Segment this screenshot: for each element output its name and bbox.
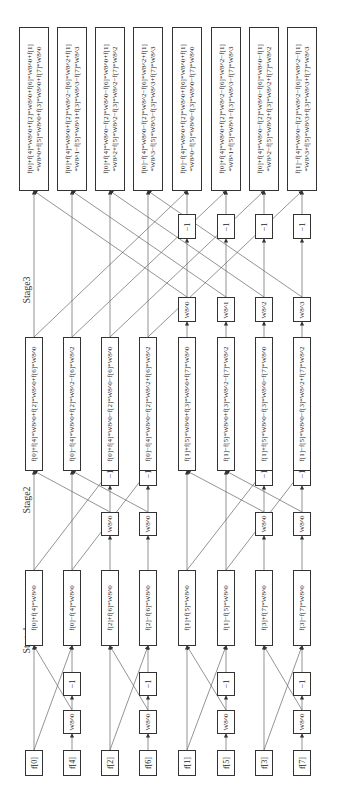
stage2-neg-box-1-text: −1	[144, 470, 153, 479]
stage2-output-box-6-text: f[1]+f[5]*W8^0−f[3]*W8^0−f[7]*W8^0	[260, 347, 269, 462]
stage1-neg-box-1-text: −1	[144, 680, 153, 689]
stage3-neg-box-1-text: −1	[222, 222, 231, 231]
stage1-output-box-0-text: f[0]+f[4]*W8^0	[30, 585, 39, 630]
stage3-neg-box-2: −1	[255, 214, 273, 239]
stage1-twiddle-box-3: W8^0	[293, 710, 311, 734]
stage1-output-box-7-text: f[3]−f[7]*W8^0	[298, 585, 307, 630]
input-box-3: f[6]	[139, 750, 157, 776]
stage3-twiddle-box-3-text: W8^3	[298, 301, 307, 318]
stage1-twiddle-box-0-text: W8^0	[68, 714, 77, 731]
stage2-output-box-4-text: f[1]+f[5]*W8^0+f[3]*W8^0+f[7]*W8^0	[183, 347, 192, 462]
input-box-7-text: f[7]	[298, 757, 307, 769]
input-box-5-text: f[5]	[222, 757, 231, 769]
input-box-6: f[3]	[255, 750, 273, 776]
stage2-output-box-1-text: f[0]−f[4]*W8^0+f[2]*W8^2−f[6]*W8^2	[68, 347, 77, 462]
stage2-output-box-0-text: f[0]+f[4]*W8^0+f[2]*W8^0+f[6]*W8^0	[30, 347, 39, 462]
stage3-output-box-0: f[0]+f[4]*W8^0+f[2]*W8^0+f[6]*W8^0+f[1]*…	[19, 27, 49, 191]
stage2-output-box-4: f[1]+f[5]*W8^0+f[3]*W8^0+f[7]*W8^0	[178, 337, 196, 471]
stage3-twiddle-box-1: W8^1	[217, 297, 235, 322]
stage3-twiddle-box-2-text: W8^2	[260, 301, 269, 318]
input-box-7: f[7]	[293, 750, 311, 776]
stage2-output-box-2-text: f[0]+f[4]*W8^0−f[2]*W8^0−f[6]*W8^0	[106, 347, 115, 462]
stage2-output-box-7-text: f[1]−f[5]*W8^0−f[3]*W8^2+f[7]*W8^2	[298, 347, 307, 462]
expr-line-2: *W8^2+f[5]*W8^2−f[3]*W8^2−f[7]*W8^2	[110, 44, 119, 173]
stage1-neg-box-1: −1	[139, 672, 157, 696]
fft-butterfly-diagram: Stage1 Stage2 Stage3 f[0]f[4]f[2]f[6]f[1…	[0, 0, 339, 812]
stage1-output-box-2-text: f[2]+f[6]*W8^0	[106, 585, 115, 630]
stage3-output-box-1: f[0]+f[4]*W8^0+f[2]*W8^2−f[6]*W8^2+f[1]*…	[57, 27, 87, 191]
stage2-output-box-3-text: f[0]−f[4]*W8^0−f[2]*W8^2+f[6]*W8^2	[144, 347, 153, 462]
stage2-twiddle-box-2: W8^0	[255, 512, 273, 536]
input-box-5: f[5]	[217, 750, 235, 776]
stage2-output-box-7: f[1]−f[5]*W8^0−f[3]*W8^2+f[7]*W8^2	[293, 337, 311, 471]
stage1-output-box-1-text: f[0]−f[4]*W8^0	[68, 585, 77, 630]
expr-line-1: f[1]−f[4]*W8^0−f[2]*W8^2−f[6]*W8^2−f[1]	[294, 44, 303, 173]
stage3-twiddle-box-2: W8^2	[255, 297, 273, 322]
stage3-neg-box-3: −1	[293, 214, 311, 239]
input-box-2-text: f[2]	[106, 757, 115, 769]
stage1-twiddle-box-3-text: W8^0	[298, 714, 307, 731]
stage1-output-box-3: f[2]−f[6]*W8^0	[139, 570, 157, 646]
stage2-output-box-6: f[1]+f[5]*W8^0−f[3]*W8^0−f[7]*W8^0	[255, 337, 273, 471]
stage1-twiddle-box-2-text: W8^0	[222, 714, 231, 731]
expr-line-2: *W8^3+f[5]*W8^3+f[3]*W8^3+f[7]*W8^3	[302, 44, 311, 173]
stage1-neg-box-2-text: −1	[222, 680, 231, 689]
stage3-twiddle-box-0-text: W8^0	[183, 301, 192, 318]
stage3-label: Stage3	[21, 276, 32, 303]
stage2-label: Stage2	[21, 486, 32, 513]
expr-line-2: *W8^3−f[5]*W8^3−f[3]*W8^3+f[7]*W8^3	[148, 44, 157, 173]
stage1-twiddle-box-0: W8^0	[63, 710, 81, 734]
stage1-output-box-3-text: f[2]−f[6]*W8^0	[144, 585, 153, 630]
stage2-twiddle-box-0-text: W8^0	[106, 516, 115, 533]
input-box-1: f[4]	[63, 750, 81, 776]
stage2-output-box-0: f[0]+f[4]*W8^0+f[2]*W8^0+f[6]*W8^0	[25, 337, 43, 471]
stage1-output-box-5-text: f[1]−f[5]*W8^0	[222, 585, 231, 630]
stage2-twiddle-box-1: W8^0	[139, 512, 157, 536]
stage3-output-box-3: f[0]−f[4]*W8^0−f[2]*W8^2−f[6]*W8^2+f[1]*…	[133, 27, 163, 191]
stage3-output-box-4: f[0]−f[4]*W8^0+f[2]*W8^0+f[6]*W8^0+f[1]*…	[172, 27, 202, 191]
stage1-neg-box-0-text: −1	[68, 680, 77, 689]
stage2-twiddle-box-2-text: W8^0	[260, 516, 269, 533]
expr-line-1: f[0]−f[4]*W8^0+f[2]*W8^0+f[6]*W8^0+f[1]	[179, 44, 188, 173]
stage3-neg-box-0: −1	[178, 214, 196, 239]
stage3-twiddle-box-3: W8^3	[293, 297, 311, 322]
expr-line-2: *W8^1−f[5]*W8^1+f[3]*W8^3−f[7]*W8^3	[72, 44, 81, 173]
stage3-neg-box-3-text: −1	[298, 222, 307, 231]
expr-line-2: *W8^2−f[5]*W8^2+f[3]*W8^2+f[7]*W8^2	[264, 44, 273, 173]
expr-line-1: f[0]+f[4]*W8^0+f[2]*W8^2−f[6]*W8^2−f[1]	[218, 44, 227, 173]
stage2-twiddle-box-3-text: W8^0	[298, 516, 307, 533]
input-box-4-text: f[1]	[183, 757, 192, 769]
expr-line-1: f[0]+f[4]*W8^0−f[2]*W8^0−f[6]*W8^0+f[1]	[102, 44, 111, 173]
stage3-output-box-6: f[0]+f[4]*W8^0−f[2]*W8^0−f[6]*W8^0−f[1]*…	[249, 27, 279, 191]
stage2-twiddle-box-3: W8^0	[293, 512, 311, 536]
input-box-0: f[0]	[25, 750, 43, 776]
input-box-2: f[2]	[101, 750, 119, 776]
stage2-neg-box-2-text: −1	[260, 470, 269, 479]
stage1-output-box-1: f[0]−f[4]*W8^0	[63, 570, 81, 646]
stage3-neg-box-2-text: −1	[260, 222, 269, 231]
stage3-twiddle-box-1-text: W8^1	[222, 301, 231, 318]
stage1-output-box-2: f[2]+f[6]*W8^0	[101, 570, 119, 646]
stage3-twiddle-box-0: W8^0	[178, 297, 196, 322]
stage2-twiddle-box-1-text: W8^0	[144, 516, 153, 533]
expr-line-1: f[0]−f[4]*W8^0−f[2]*W8^2−f[6]*W8^2+f[1]	[140, 44, 149, 173]
stage1-neg-box-3-text: −1	[298, 680, 307, 689]
stage3-output-box-5: f[0]+f[4]*W8^0+f[2]*W8^2−f[6]*W8^2−f[1]*…	[211, 27, 241, 191]
stage1-output-box-6: f[3]+f[7]*W8^0	[255, 570, 273, 646]
input-box-6-text: f[3]	[260, 757, 269, 769]
stage1-output-box-0: f[0]+f[4]*W8^0	[25, 570, 43, 646]
stage1-output-box-5: f[1]−f[5]*W8^0	[217, 570, 235, 646]
stage1-output-box-4-text: f[1]+f[5]*W8^0	[183, 585, 192, 630]
stage3-neg-box-0-text: −1	[183, 222, 192, 231]
stage3-neg-box-1: −1	[217, 214, 235, 239]
stage3-output-box-2: f[0]+f[4]*W8^0−f[2]*W8^0−f[6]*W8^0+f[1]*…	[95, 27, 125, 191]
stage2-output-box-5-text: f[1]−f[5]*W8^0+f[3]*W8^2−f[7]*W8^2	[222, 347, 231, 462]
stage3-output-box-7: f[1]−f[4]*W8^0−f[2]*W8^2−f[6]*W8^2−f[1]*…	[287, 27, 317, 191]
stage1-output-box-7: f[3]−f[7]*W8^0	[293, 570, 311, 646]
stage2-output-box-1: f[0]−f[4]*W8^0+f[2]*W8^2−f[6]*W8^2	[63, 337, 81, 471]
stage1-twiddle-box-1: W8^0	[139, 710, 157, 734]
stage2-output-box-5: f[1]−f[5]*W8^0+f[3]*W8^2−f[7]*W8^2	[217, 337, 235, 471]
expr-line-2: *W8^0−f[5]*W8^0−f[3]*W8^0−f[7]*W8^0	[187, 44, 196, 173]
stage1-output-box-4: f[1]+f[5]*W8^0	[178, 570, 196, 646]
stage1-twiddle-box-1-text: W8^0	[144, 714, 153, 731]
